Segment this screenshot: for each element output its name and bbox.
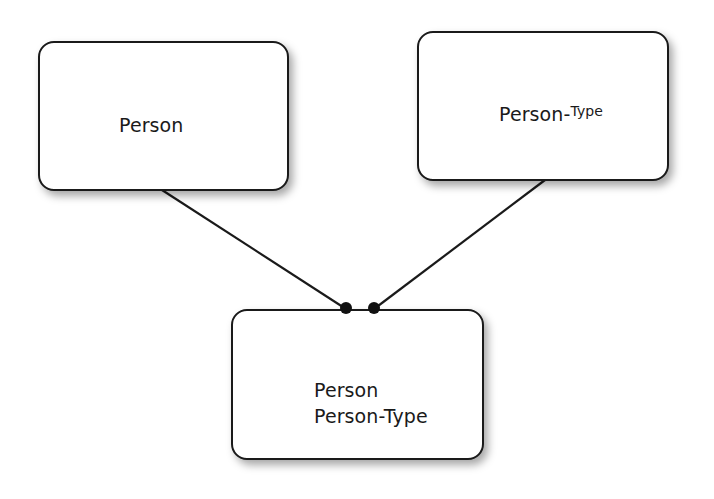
er-diagram-canvas: Person Person-Type Person Person-Type <box>0 0 714 499</box>
relationship-endpoint-dot-icon <box>368 302 380 314</box>
entity-person-type[interactable]: Person-Type <box>417 31 669 181</box>
entity-person-label: Person <box>119 113 183 137</box>
relationship-person-to-association <box>162 190 346 309</box>
entity-person-type-label-main: Person- <box>499 103 570 125</box>
relationship-person-type-to-association <box>374 180 545 309</box>
relationship-endpoint-dot-icon <box>340 302 352 314</box>
entity-person-person-type[interactable]: Person Person-Type <box>231 309 484 460</box>
entity-person[interactable]: Person <box>38 41 289 191</box>
entity-person-type-label-sup: Type <box>570 103 603 119</box>
entity-association-line-2: Person-Type <box>314 403 428 429</box>
entity-person-type-label: Person-Type <box>499 102 603 128</box>
entity-association-label: Person Person-Type <box>314 377 428 429</box>
entity-association-line-1: Person <box>314 377 428 403</box>
